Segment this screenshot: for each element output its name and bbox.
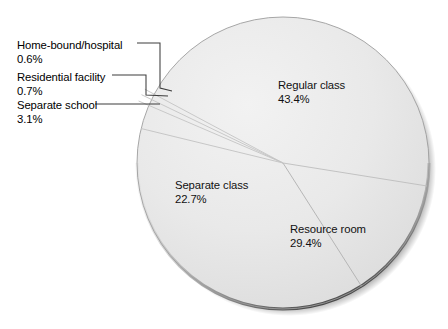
slice-label-regular-class: Regular class 43.4%	[278, 78, 345, 107]
callout-label-home-bound: Home-bound/hospital 0.6%	[17, 38, 123, 66]
slice-name-regular-class: Regular class	[278, 78, 345, 92]
callout-name-separate-school: Separate school	[17, 98, 97, 112]
slice-name-resource-room: Resource room	[290, 222, 366, 236]
slice-value-regular-class: 43.4%	[278, 92, 345, 106]
callout-value-residential-facility: 0.7%	[17, 84, 105, 98]
slice-label-resource-room: Resource room 29.4%	[290, 222, 366, 251]
callout-value-home-bound: 0.6%	[17, 52, 123, 66]
callout-value-separate-school: 3.1%	[17, 112, 97, 126]
callout-name-home-bound: Home-bound/hospital	[17, 38, 123, 52]
slice-value-separate-class: 22.7%	[175, 192, 248, 206]
callout-name-residential-facility: Residential facility	[17, 70, 105, 84]
callout-label-separate-school: Separate school 3.1%	[17, 98, 97, 126]
slice-label-separate-class: Separate class 22.7%	[175, 178, 248, 207]
slice-name-separate-class: Separate class	[175, 178, 248, 192]
callout-label-residential-facility: Residential facility 0.7%	[17, 70, 105, 98]
slice-value-resource-room: 29.4%	[290, 236, 366, 250]
pie-chart: Home-bound/hospital 0.6% Residential fac…	[0, 0, 448, 329]
